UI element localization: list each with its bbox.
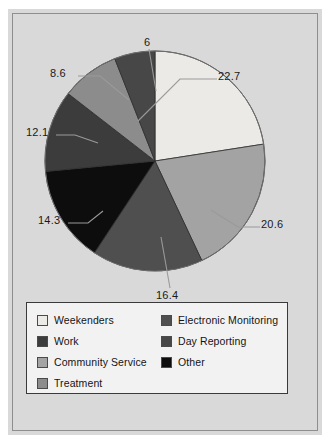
legend-swatch-icon-other [161, 357, 172, 368]
legend-item-weekenders[interactable]: Weekenders [37, 310, 147, 330]
value-label-6: 6 [144, 36, 150, 48]
legend-swatch-icon-treatment [37, 378, 48, 389]
legend-swatch-icon-work [37, 336, 48, 347]
value-label-20-6: 20.6 [261, 218, 283, 230]
legend-swatch-icon-weekenders [37, 315, 48, 326]
page-root: 22.7 20.6 16.4 14.3 12.1 8.6 6 Weekender… [0, 0, 334, 447]
legend-swatch-icon-electronic-monitoring [161, 315, 172, 326]
value-label-16-4: 16.4 [156, 289, 178, 301]
legend-label-work: Work [54, 335, 79, 347]
legend-label-other: Other [178, 356, 205, 368]
value-label-14-3: 14.3 [38, 214, 60, 226]
legend-column-left: Weekenders Work Community Service Treatm… [37, 310, 147, 394]
legend-item-treatment[interactable]: Treatment [37, 373, 147, 393]
legend-label-day-reporting: Day Reporting [178, 335, 246, 347]
pie-slice-weekenders[interactable] [155, 51, 264, 161]
legend-item-day-reporting[interactable]: Day Reporting [161, 331, 278, 351]
legend-label-treatment: Treatment [54, 377, 102, 389]
legend-item-electronic-monitoring[interactable]: Electronic Monitoring [161, 310, 278, 330]
legend-column-right: Electronic Monitoring Day Reporting Othe… [161, 310, 278, 373]
value-label-22-7: 22.7 [218, 70, 240, 82]
legend-item-work[interactable]: Work [37, 331, 147, 351]
legend: Weekenders Work Community Service Treatm… [26, 302, 288, 394]
legend-label-community-service: Community Service [54, 356, 147, 368]
legend-item-community-service[interactable]: Community Service [37, 352, 147, 372]
value-label-12-1: 12.1 [26, 126, 48, 138]
value-label-8-6: 8.6 [50, 67, 66, 79]
legend-label-weekenders: Weekenders [54, 314, 114, 326]
legend-swatch-icon-community-service [37, 357, 48, 368]
legend-label-electronic-monitoring: Electronic Monitoring [178, 314, 278, 326]
legend-swatch-icon-day-reporting [161, 336, 172, 347]
legend-item-other[interactable]: Other [161, 352, 278, 372]
